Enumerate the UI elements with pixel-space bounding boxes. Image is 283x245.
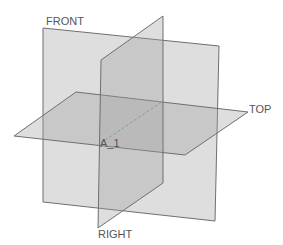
plane-label-front: FRONT xyxy=(46,15,84,27)
plane-label-right: RIGHT xyxy=(98,228,133,240)
axis-label: A_1 xyxy=(100,137,120,149)
reference-planes-diagram: FRONTTOPRIGHTA_1 xyxy=(0,0,283,245)
plane-label-top: TOP xyxy=(249,103,271,115)
